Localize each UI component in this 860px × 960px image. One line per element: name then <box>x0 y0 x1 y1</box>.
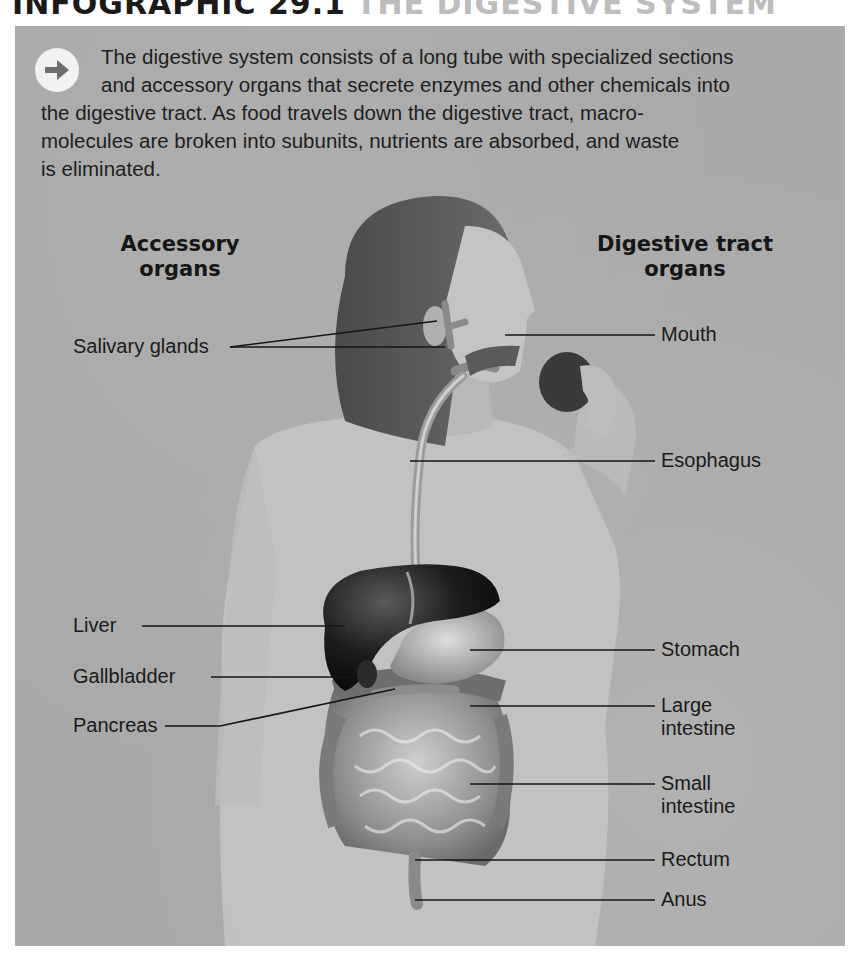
digestive-tract-organs-heading: Digestive tract organs <box>580 232 790 282</box>
label-pancreas: Pancreas <box>73 714 158 737</box>
label-line: intestine <box>661 795 736 818</box>
accessory-organs-heading: Accessory organs <box>75 232 285 282</box>
infographic-number: INFOGRAPHIC 29.1 <box>12 0 346 21</box>
label-gallbladder: Gallbladder <box>73 665 175 688</box>
label-mouth: Mouth <box>661 323 717 346</box>
intro-line-3: the digestive tract. As food travels dow… <box>41 100 644 126</box>
label-anus: Anus <box>661 888 707 911</box>
label-line: Small <box>661 772 736 795</box>
label-large-intestine: Large intestine <box>661 694 736 740</box>
label-line: Large <box>661 694 736 717</box>
label-small-intestine: Small intestine <box>661 772 736 818</box>
label-rectum: Rectum <box>661 848 730 871</box>
label-line: intestine <box>661 717 736 740</box>
heading-line: Digestive tract <box>580 232 790 257</box>
heading-line: Accessory <box>75 232 285 257</box>
heading-line: organs <box>75 257 285 282</box>
intro-line-1: The digestive system consists of a long … <box>101 44 733 70</box>
intro-line-2: and accessory organs that secrete enzyme… <box>101 72 730 98</box>
arrow-right-icon <box>35 48 79 92</box>
heading-line: organs <box>580 257 790 282</box>
label-stomach: Stomach <box>661 638 740 661</box>
intro-line-4: molecules are broken into subunits, nutr… <box>41 128 679 154</box>
label-liver: Liver <box>73 614 116 637</box>
diagram-panel: The digestive system consists of a long … <box>15 26 845 946</box>
infographic-header: INFOGRAPHIC 29.1THE DIGESTIVE SYSTEM <box>12 0 777 21</box>
infographic-title: THE DIGESTIVE SYSTEM <box>356 0 777 21</box>
label-esophagus: Esophagus <box>661 449 761 472</box>
intro-line-5: is eliminated. <box>41 156 161 182</box>
label-salivary-glands: Salivary glands <box>73 335 209 358</box>
